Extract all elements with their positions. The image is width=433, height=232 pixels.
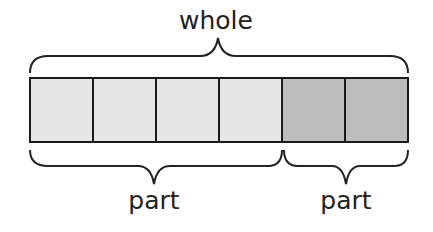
cell-part1	[94, 79, 157, 141]
part2-brace	[284, 150, 408, 184]
cell-part1	[220, 79, 283, 141]
bar-model	[29, 77, 409, 143]
cell-part1	[31, 79, 94, 141]
cell-part1	[157, 79, 220, 141]
whole-brace	[30, 38, 408, 73]
part2-label: part	[296, 188, 396, 213]
cell-part2	[346, 79, 407, 141]
cell-part2	[283, 79, 346, 141]
part1-label: part	[104, 188, 204, 213]
part1-brace	[30, 150, 282, 184]
whole-label: whole	[166, 8, 266, 33]
